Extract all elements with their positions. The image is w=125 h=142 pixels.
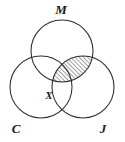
point-label-x: X	[44, 89, 53, 101]
set-label-c: C	[12, 121, 21, 136]
venn-diagram-svg: M C J X	[0, 0, 125, 142]
set-label-m: M	[54, 2, 67, 17]
circle-set-c	[10, 56, 72, 118]
venn-diagram-figure: M C J X	[0, 0, 125, 142]
set-label-j: J	[99, 121, 107, 136]
